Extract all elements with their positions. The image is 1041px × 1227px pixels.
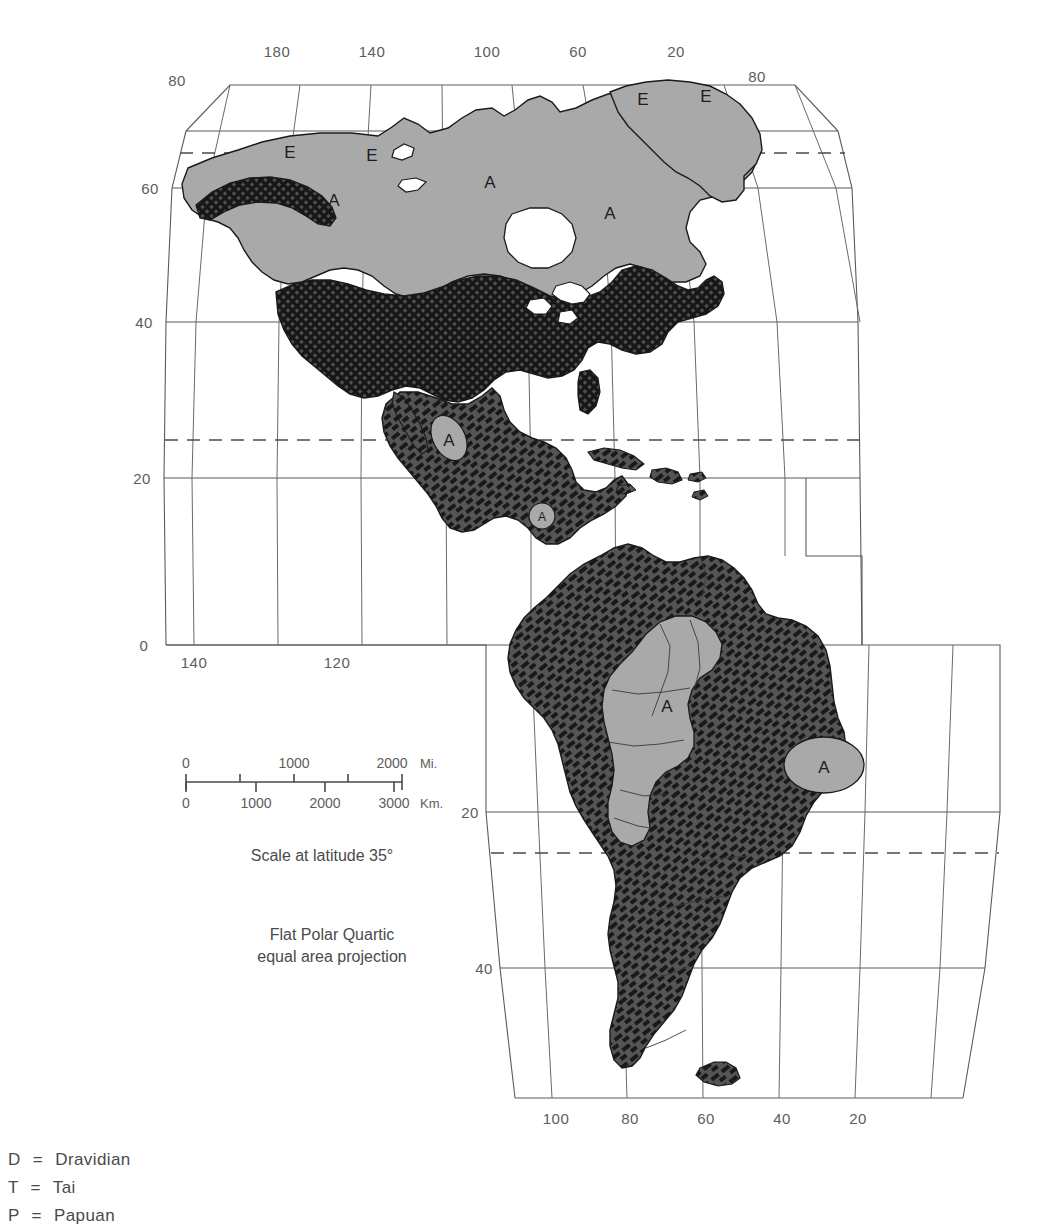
latitude-label-80-left: 80 [168, 72, 186, 89]
legend-item-tai: T = Tai [8, 1178, 76, 1198]
map-figure: E E E E A A A A A A A 180 140 100 60 20 … [0, 0, 1041, 1227]
scale-mi-unit: Mi. [420, 756, 437, 771]
scale-km-tick: 2000 [309, 795, 340, 811]
longitude-label-bottom: 40 [773, 1110, 791, 1127]
legend-equals: = [32, 1206, 42, 1225]
projection-caption-line1: Flat Polar Quartic [270, 926, 394, 943]
legend-label: Dravidian [55, 1150, 130, 1169]
region-label-small: A [538, 510, 546, 524]
legend-key: P [8, 1206, 19, 1225]
scale-km-unit: Km. [420, 796, 443, 811]
longitude-label-top: 20 [667, 43, 685, 60]
legend-item-dravidian: D = Dravidian [8, 1150, 131, 1170]
scale-mi-tick: 0 [182, 755, 190, 771]
legend-key: T [8, 1178, 18, 1197]
legend-label: Tai [53, 1178, 76, 1197]
latitude-label-left: 20 [133, 470, 151, 487]
legend-equals: = [31, 1178, 41, 1197]
region-label: A [484, 173, 496, 192]
scale-km-tick: 1000 [240, 795, 271, 811]
latitude-label-left: 0 [140, 637, 149, 654]
latitude-label-80-right: 80 [748, 68, 766, 85]
legend-equals: = [33, 1150, 43, 1169]
latitude-label-south: 40 [475, 960, 493, 977]
longitude-label-equator: 140 [181, 654, 208, 671]
longitude-label-top: 140 [359, 43, 386, 60]
legend-item-papuan: P = Papuan [8, 1206, 115, 1226]
longitude-label-bottom: 60 [697, 1110, 715, 1127]
region-label: E [284, 143, 295, 162]
scale-mi-tick: 1000 [278, 755, 309, 771]
region-label: E [366, 146, 377, 165]
projection-caption-line2: equal area projection [257, 948, 406, 965]
legend-label: Papuan [54, 1206, 115, 1225]
region-label: A [328, 191, 340, 210]
longitude-label-top: 180 [264, 43, 291, 60]
region-label: E [637, 90, 648, 109]
map-svg: E E E E A A A A A A A 180 140 100 60 20 … [0, 0, 1041, 1227]
longitude-label-top: 60 [569, 43, 587, 60]
latitude-label-left: 40 [135, 314, 153, 331]
longitude-label-equator: 120 [324, 654, 351, 671]
region-label: E [700, 87, 711, 106]
scale-km-tick: 3000 [378, 795, 409, 811]
region-label: A [604, 204, 616, 223]
longitude-label-bottom: 80 [621, 1110, 639, 1127]
scale-km-tick: 0 [182, 795, 190, 811]
scale-caption: Scale at latitude 35° [251, 847, 394, 864]
longitude-label-bottom: 20 [849, 1110, 867, 1127]
legend-key: D [8, 1150, 21, 1169]
region-label: A [818, 758, 830, 777]
latitude-label-south: 20 [461, 804, 479, 821]
region-label: A [661, 697, 673, 716]
hudson-bay [504, 208, 576, 268]
latitude-label-left: 60 [141, 180, 159, 197]
region-label: A [443, 431, 455, 450]
longitude-label-top: 100 [474, 43, 501, 60]
scale-mi-tick: 2000 [376, 755, 407, 771]
longitude-label-bottom: 100 [543, 1110, 570, 1127]
